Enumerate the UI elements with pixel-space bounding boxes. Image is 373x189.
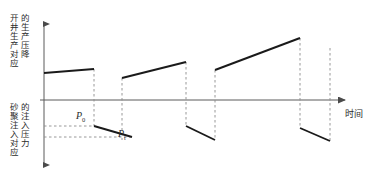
lower-curve-segment — [300, 128, 330, 141]
lower-curve-segment — [94, 126, 132, 137]
upper-curve-segment — [44, 69, 94, 73]
y-axis-upper-label-line2: 的生产压降 — [19, 14, 29, 59]
lower-curve-group — [94, 126, 330, 141]
lower-curve-segment — [186, 126, 215, 140]
y-axis-upper-label-line1: 开井生产对应 — [8, 14, 18, 68]
x-axis-label: 时间 — [345, 107, 363, 120]
annotation-p-t: Pt — [118, 128, 126, 141]
upper-curve-segment — [215, 38, 300, 70]
annotation-p-zero: P0 — [76, 110, 85, 123]
plot-canvas — [0, 0, 373, 189]
dashed-vertical-group — [94, 38, 330, 141]
annotation-p-t-subscript: t — [124, 134, 126, 141]
upper-curve-segment — [122, 62, 186, 78]
y-axis-lower-label-line2: 的注入压力 — [19, 103, 29, 148]
upper-curve-group — [44, 38, 300, 78]
pressure-cycle-diagram: 开井生产对应 的生产压降 砂聚注入对应 的注入压力 时间 P0 Pt — [0, 0, 373, 189]
annotation-p-zero-subscript: 0 — [82, 116, 85, 123]
y-axis-lower-label-line1: 砂聚注入对应 — [8, 103, 18, 157]
